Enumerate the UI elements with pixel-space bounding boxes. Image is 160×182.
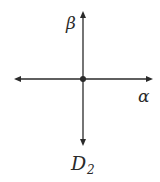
caption-d: D <box>70 152 86 174</box>
caption-subscript: 2 <box>86 163 95 177</box>
left-arrow-icon <box>14 76 21 82</box>
right-arrow-icon <box>146 76 153 82</box>
center-point <box>80 76 86 82</box>
d2-diagram: β α D 2 <box>0 0 160 182</box>
down-arrow-icon <box>80 139 86 146</box>
beta-label: β <box>65 13 76 33</box>
up-arrow-icon <box>80 11 86 18</box>
alpha-label: α <box>138 86 150 106</box>
